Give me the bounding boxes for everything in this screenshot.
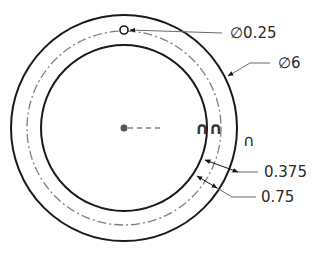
offset-label: 0.375 (264, 163, 307, 181)
center-point-icon (121, 125, 128, 132)
outer-diameter-label: ∅6 (278, 54, 301, 72)
double-arc-symbol: ∩∩ (195, 118, 223, 138)
offset-dimension-line (205, 160, 238, 172)
width-label: 0.75 (261, 188, 294, 206)
ring-technical-drawing: ∅0.25 ∅6 ∩∩ ∩ 0.375 0.75 (0, 0, 315, 256)
hole-diameter-label: ∅0.25 (230, 24, 276, 42)
outer-diameter-leader (228, 63, 270, 76)
hole (120, 26, 128, 34)
width-leader (217, 188, 256, 197)
single-arc-symbol: ∩ (243, 131, 255, 150)
